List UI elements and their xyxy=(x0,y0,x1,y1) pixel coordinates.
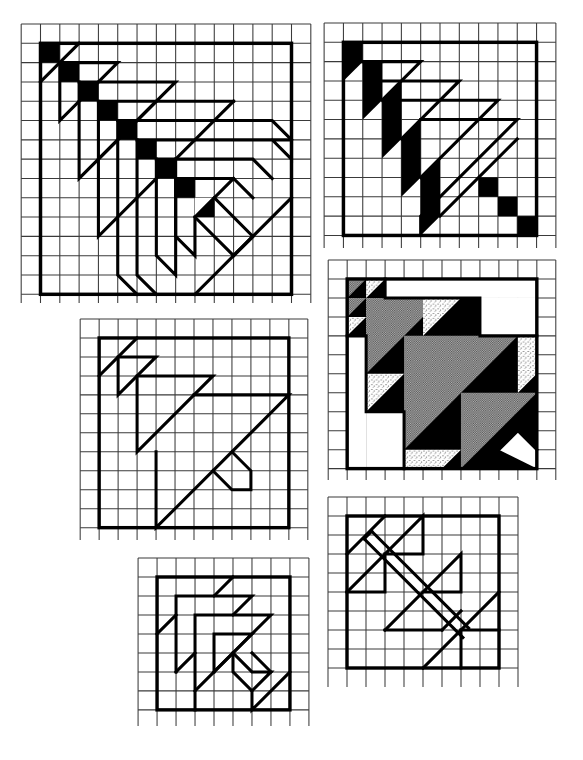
quilt-panel-1 xyxy=(21,24,311,303)
grid-diagram-4 xyxy=(80,319,308,540)
quilt-panel-4 xyxy=(80,319,308,540)
quilt-panel-3 xyxy=(328,260,556,480)
grid-lines xyxy=(138,558,309,726)
grid-diagram-5 xyxy=(138,558,309,726)
outline-shapes xyxy=(40,43,291,294)
grid-diagram-1 xyxy=(21,24,311,303)
quilt-panel-6 xyxy=(328,497,518,687)
quilt-panel-5 xyxy=(138,558,309,726)
quilt-panel-2 xyxy=(324,23,556,248)
grid-lines xyxy=(80,319,308,540)
grid-diagram-6 xyxy=(328,497,518,687)
outline-shapes xyxy=(157,577,290,710)
grid-diagram-3 xyxy=(328,260,556,480)
grid-diagram-2 xyxy=(324,23,556,248)
